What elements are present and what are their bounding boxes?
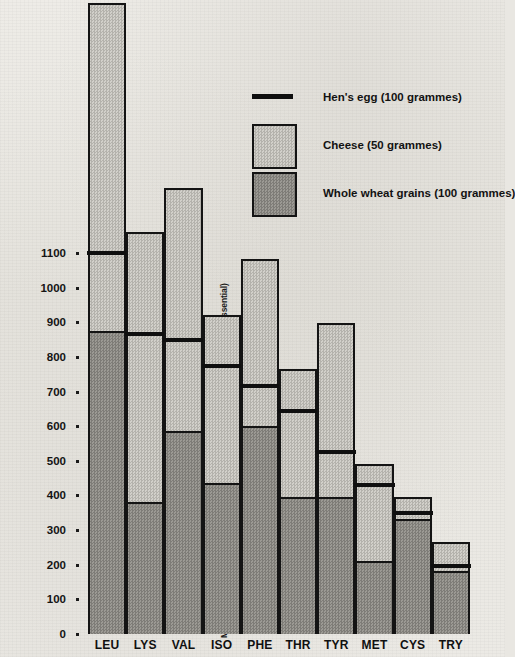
legend-swatch <box>252 124 297 169</box>
legend-item-label: Hen's egg (100 grammes) <box>323 91 462 103</box>
y-axis-tick-label: 700 <box>47 386 66 398</box>
y-axis-tick-mark <box>76 287 79 290</box>
x-axis-label-tyr: TYR <box>317 638 355 652</box>
rule-hens-egg-try[interactable] <box>431 564 471 568</box>
y-axis-tick: 0 <box>0 628 88 640</box>
y-axis-tick: 300 <box>0 524 88 536</box>
rule-hens-egg-val[interactable] <box>163 338 203 342</box>
y-axis-tick-mark <box>76 460 79 463</box>
y-axis-tick-mark <box>76 321 79 324</box>
y-axis-tick: 1100 <box>0 247 88 259</box>
rule-hens-egg-cys[interactable] <box>393 511 433 515</box>
y-axis-tick-mark <box>76 356 79 359</box>
y-axis-tick: 700 <box>0 386 88 398</box>
x-axis-label-val: VAL <box>164 638 202 652</box>
y-axis-tick-mark <box>76 494 79 497</box>
legend-swatch <box>252 172 297 217</box>
y-axis-tick-label: 500 <box>47 455 66 467</box>
x-axis-label-cys: CYS <box>394 638 432 652</box>
rule-hens-egg-thr[interactable] <box>278 409 318 413</box>
y-axis-tick-mark <box>76 633 79 636</box>
y-axis-tick-label: 1000 <box>40 282 66 294</box>
y-axis-tick-mark <box>76 564 79 567</box>
y-axis-tick-label: 1100 <box>41 247 66 259</box>
y-axis-tick-mark <box>76 425 79 428</box>
y-axis-tick: 800 <box>0 351 88 363</box>
bar-wheat-phe[interactable] <box>241 426 279 634</box>
legend-item[interactable]: Cheese (50 grammes) <box>252 124 442 165</box>
legend-swatch-icon <box>252 124 293 165</box>
bar-group-iso[interactable] <box>203 4 241 634</box>
y-axis-tick: 200 <box>0 559 88 571</box>
rule-hens-egg-leu[interactable] <box>87 251 127 255</box>
bar-wheat-cys[interactable] <box>394 519 432 634</box>
y-axis-tick-label: 0 <box>60 628 66 640</box>
legend-swatch <box>252 94 293 99</box>
y-axis-tick: 400 <box>0 489 88 501</box>
y-axis-tick-mark <box>76 391 79 394</box>
y-axis-tick-mark <box>76 529 79 532</box>
y-axis-tick-mark <box>76 252 79 255</box>
y-axis-tick: 600 <box>0 420 88 432</box>
y-axis-tick-mark <box>76 598 79 601</box>
rule-hens-egg-tyr[interactable] <box>316 450 356 454</box>
y-axis-tick-label: 300 <box>47 524 66 536</box>
y-axis-tick-label: 900 <box>47 316 66 328</box>
legend-swatch-icon <box>252 76 293 117</box>
x-axis-label-iso: ISO <box>203 638 241 652</box>
y-axis-tick-label: 800 <box>47 351 66 363</box>
rule-hens-egg-phe[interactable] <box>240 384 280 388</box>
y-axis-tick-label: 200 <box>47 559 66 571</box>
rule-hens-egg-met[interactable] <box>354 483 394 487</box>
y-axis-tick: 1000 <box>0 282 88 294</box>
bar-group-leu[interactable] <box>88 4 126 634</box>
y-axis-tick-label: 400 <box>47 489 66 501</box>
legend-item-label: Whole wheat grains (100 grammes) <box>323 187 515 199</box>
x-axis-label-phe: PHE <box>241 638 279 652</box>
x-axis-label-leu: LEU <box>88 638 126 652</box>
rule-hens-egg-lys[interactable] <box>125 332 165 336</box>
legend-swatch-icon <box>252 172 293 213</box>
legend-item-label: Cheese (50 grammes) <box>323 139 442 151</box>
legend-item[interactable]: Hen's egg (100 grammes) <box>252 76 462 117</box>
y-axis-tick-label: 100 <box>47 593 66 605</box>
y-axis-tick: 100 <box>0 593 88 605</box>
bar-wheat-leu[interactable] <box>88 331 126 634</box>
bar-group-lys[interactable] <box>126 4 164 634</box>
x-axis-label-met: MET <box>355 638 393 652</box>
bar-wheat-lys[interactable] <box>126 502 164 634</box>
bar-wheat-iso[interactable] <box>203 483 241 634</box>
y-axis-tick-label: 600 <box>47 420 66 432</box>
bar-wheat-met[interactable] <box>355 561 393 634</box>
bar-wheat-try[interactable] <box>432 571 470 634</box>
bar-wheat-val[interactable] <box>164 431 202 634</box>
x-axis-label-thr: THR <box>279 638 317 652</box>
x-axis: LEULYSVALISOPHETHRTYRMETCYSTRY <box>88 638 470 657</box>
bar-wheat-thr[interactable] <box>279 497 317 634</box>
x-axis-label-lys: LYS <box>126 638 164 652</box>
bar-group-val[interactable] <box>164 4 202 634</box>
x-axis-label-try: TRY <box>432 638 470 652</box>
y-axis-tick: 500 <box>0 455 88 467</box>
legend-item[interactable]: Whole wheat grains (100 grammes) <box>252 172 515 213</box>
rule-hens-egg-iso[interactable] <box>202 364 242 368</box>
bar-wheat-tyr[interactable] <box>317 497 355 634</box>
y-axis-tick: 900 <box>0 316 88 328</box>
